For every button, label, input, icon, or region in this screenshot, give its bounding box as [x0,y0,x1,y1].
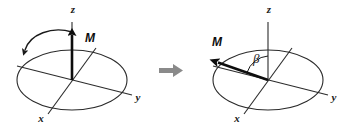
magnetization-vector-label: M [212,35,223,49]
y-axis-line [17,66,132,95]
flip-angle-label: β [252,51,260,66]
magnetization-precession-figure: z y x M z y x M β [0,0,348,129]
magnetization-vector [218,63,268,81]
precession-arrow [25,30,72,50]
x-axis-label: x [37,112,44,124]
magnetization-vector-label: M [85,31,96,45]
y-axis-line [213,66,328,95]
figure-canvas: z y x M z y x M β [0,0,348,129]
transition-arrow [159,64,183,77]
left-panel: z y x M [17,3,141,124]
transition-arrow-glyph [159,64,183,77]
x-axis-label: x [233,112,240,124]
z-axis-label: z [70,3,76,15]
y-axis-label: y [330,91,337,103]
z-axis-label: z [266,3,272,15]
right-panel: z y x M β [212,3,337,124]
y-axis-label: y [134,91,141,103]
